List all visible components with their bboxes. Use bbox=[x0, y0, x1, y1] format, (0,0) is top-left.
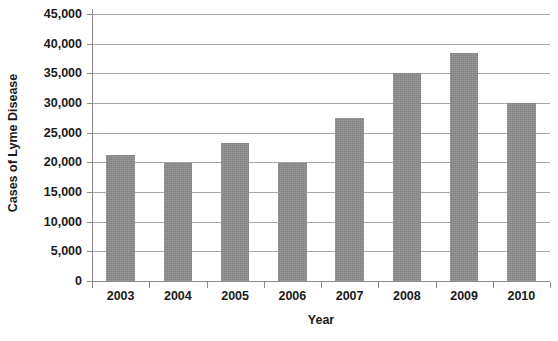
y-tick-label: 40,000 bbox=[44, 37, 82, 51]
bar-chart: Cases of Lyme Disease 05,00010,00015,000… bbox=[0, 0, 558, 341]
y-tick-label: 0 bbox=[75, 274, 82, 288]
x-tick-mark bbox=[149, 282, 150, 288]
x-tick-label: 2007 bbox=[336, 289, 364, 303]
x-tick-mark bbox=[550, 282, 551, 288]
y-tick-label: 35,000 bbox=[44, 66, 82, 80]
y-tick-mark bbox=[87, 222, 93, 223]
y-tick-mark bbox=[87, 133, 93, 134]
bars-layer bbox=[92, 14, 550, 281]
y-tick-mark bbox=[87, 192, 93, 193]
x-tick-label: 2003 bbox=[107, 289, 135, 303]
y-tick-label: 15,000 bbox=[44, 185, 82, 199]
x-tick-label: 2010 bbox=[507, 289, 535, 303]
x-tick-mark bbox=[92, 282, 93, 288]
y-axis-tick-labels: 05,00010,00015,00020,00025,00030,00035,0… bbox=[26, 0, 86, 295]
y-tick-mark bbox=[87, 251, 93, 252]
y-tick-label: 5,000 bbox=[51, 244, 82, 258]
bar bbox=[507, 103, 536, 281]
y-axis-title-text: Cases of Lyme Disease bbox=[6, 73, 20, 212]
y-tick-mark bbox=[87, 103, 93, 104]
x-axis-title: Year bbox=[92, 313, 550, 327]
x-tick-mark bbox=[378, 282, 379, 288]
y-tick-mark bbox=[87, 73, 93, 74]
bar bbox=[335, 118, 364, 281]
plot-area bbox=[92, 14, 550, 281]
y-tick-mark bbox=[87, 162, 93, 163]
x-tick-label: 2008 bbox=[393, 289, 421, 303]
x-tick-label: 2005 bbox=[221, 289, 249, 303]
bar bbox=[450, 53, 479, 281]
x-axis-tick-labels: 20032004200520062007200820092010 bbox=[92, 289, 550, 311]
y-tick-label: 25,000 bbox=[44, 126, 82, 140]
y-tick-label: 45,000 bbox=[44, 7, 82, 21]
y-axis-title: Cases of Lyme Disease bbox=[0, 0, 26, 285]
x-tick-mark bbox=[264, 282, 265, 288]
x-tick-mark bbox=[207, 282, 208, 288]
x-tick-label: 2004 bbox=[164, 289, 192, 303]
y-tick-mark bbox=[87, 44, 93, 45]
bar bbox=[221, 143, 250, 281]
y-tick-label: 10,000 bbox=[44, 215, 82, 229]
x-tick-label: 2006 bbox=[278, 289, 306, 303]
y-tick-label: 20,000 bbox=[44, 155, 82, 169]
x-tick-mark bbox=[321, 282, 322, 288]
y-tick-label: 30,000 bbox=[44, 96, 82, 110]
bar bbox=[278, 163, 307, 281]
x-tick-label: 2009 bbox=[450, 289, 478, 303]
y-tick-mark bbox=[87, 14, 93, 15]
x-tick-mark bbox=[436, 282, 437, 288]
bar bbox=[106, 155, 135, 281]
bar bbox=[393, 73, 422, 281]
x-tick-mark bbox=[493, 282, 494, 288]
bar bbox=[164, 163, 193, 281]
